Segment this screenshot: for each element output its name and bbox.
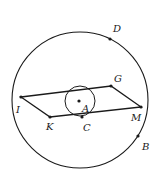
- label-K: K: [45, 121, 54, 132]
- label-D: D: [112, 23, 121, 34]
- point-B: [136, 134, 139, 137]
- point-G: [109, 84, 112, 87]
- label-M: M: [130, 112, 142, 123]
- label-B: B: [141, 141, 149, 152]
- point-D: [108, 37, 111, 40]
- parallelogram-IGMK: [21, 86, 141, 117]
- point-M: [139, 105, 142, 108]
- label-A: A: [81, 103, 89, 114]
- point-A: [77, 99, 80, 102]
- label-G: G: [114, 73, 122, 84]
- point-C: [80, 115, 83, 118]
- point-I: [19, 95, 22, 98]
- point-K: [48, 115, 51, 118]
- label-I: I: [15, 104, 21, 115]
- geometry-diagram: D G I A M K C B: [0, 0, 160, 183]
- label-C: C: [83, 122, 91, 133]
